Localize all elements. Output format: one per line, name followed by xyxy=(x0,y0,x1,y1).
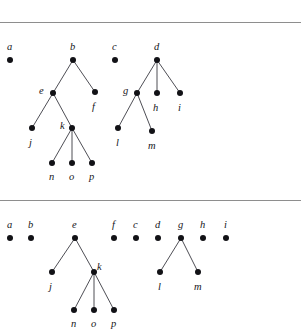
tree-node-label-h: h xyxy=(153,103,158,114)
tree-node-c xyxy=(133,235,139,241)
tree-node-d xyxy=(155,235,161,241)
tree-node-m xyxy=(195,269,201,275)
tree-node-label-l: l xyxy=(158,282,161,293)
tree-node-f xyxy=(111,235,117,241)
tree-node-g xyxy=(178,235,184,241)
tree-edge-g-l xyxy=(118,93,137,128)
tree-edge-b-e xyxy=(53,60,73,93)
tree-node-f xyxy=(92,89,98,95)
tree-node-label-l: l xyxy=(116,138,119,149)
middle-separator-rule xyxy=(0,200,301,201)
tree-node-l xyxy=(157,269,163,275)
tree-node-e xyxy=(72,235,78,241)
tree-node-label-c: c xyxy=(133,220,138,231)
tree-node-label-o: o xyxy=(69,172,74,183)
tree-node-c xyxy=(112,57,118,63)
tree-edge-d-i xyxy=(157,60,180,93)
tree-node-label-d: d xyxy=(154,42,159,53)
tree-node-label-n: n xyxy=(71,319,76,330)
tree-node-label-e: e xyxy=(72,220,77,231)
top-separator-rule xyxy=(0,22,301,23)
faint-header-artifact xyxy=(0,0,301,16)
tree-node-label-k: k xyxy=(97,262,102,273)
tree-node-label-e: e xyxy=(39,86,44,97)
tree-node-a xyxy=(7,57,13,63)
figure-canvas: abcdefghijklmnopabefcdghijklmnop xyxy=(0,0,301,331)
tree-node-a xyxy=(7,235,13,241)
tree-edge-d-g xyxy=(137,60,157,93)
tree-edge-k-p xyxy=(72,128,92,163)
tree-node-label-n: n xyxy=(49,172,54,183)
tree-node-l xyxy=(115,125,121,131)
tree-node-label-p: p xyxy=(89,172,94,183)
tree-node-i xyxy=(177,90,183,96)
tree-node-label-k: k xyxy=(60,121,65,132)
tree-node-e xyxy=(50,90,56,96)
tree-node-label-a: a xyxy=(7,42,12,53)
tree-node-label-a: a xyxy=(7,220,12,231)
tree-node-n xyxy=(49,160,55,166)
tree-edge-e-j xyxy=(52,238,75,272)
tree-edge-layer xyxy=(0,0,301,331)
tree-node-label-b: b xyxy=(28,220,33,231)
tree-node-label-i: i xyxy=(178,103,181,114)
tree-node-i xyxy=(223,235,229,241)
tree-node-b xyxy=(28,235,34,241)
tree-node-o xyxy=(91,307,97,313)
tree-node-p xyxy=(89,160,95,166)
tree-node-label-o: o xyxy=(91,319,96,330)
tree-node-j xyxy=(29,125,35,131)
tree-node-label-g: g xyxy=(178,220,183,231)
tree-node-d xyxy=(154,57,160,63)
tree-edge-g-m xyxy=(181,238,198,272)
tree-node-n xyxy=(71,307,77,313)
tree-node-label-j: j xyxy=(29,138,32,149)
tree-node-label-j: j xyxy=(49,282,52,293)
tree-edge-e-j xyxy=(32,93,53,128)
tree-node-label-d: d xyxy=(155,220,160,231)
tree-node-label-f: f xyxy=(112,220,115,231)
tree-node-label-c: c xyxy=(112,42,117,53)
tree-node-label-m: m xyxy=(148,141,156,152)
tree-edge-e-k xyxy=(75,238,94,272)
tree-edge-b-f xyxy=(73,60,95,92)
tree-node-label-g: g xyxy=(123,86,128,97)
tree-node-h xyxy=(154,90,160,96)
tree-node-p xyxy=(111,307,117,313)
tree-edge-k-n xyxy=(52,128,72,163)
tree-edge-g-l xyxy=(160,238,181,272)
tree-node-label-h: h xyxy=(200,220,205,231)
tree-node-h xyxy=(200,235,206,241)
tree-node-label-m: m xyxy=(194,282,202,293)
tree-node-m xyxy=(149,128,155,134)
tree-edge-g-m xyxy=(137,93,152,131)
tree-node-j xyxy=(49,269,55,275)
tree-edge-k-n xyxy=(74,272,94,310)
tree-node-label-f: f xyxy=(92,102,95,113)
tree-node-label-i: i xyxy=(224,220,227,231)
tree-node-b xyxy=(70,57,76,63)
tree-node-label-b: b xyxy=(70,42,75,53)
tree-edge-k-p xyxy=(94,272,114,310)
tree-node-k xyxy=(69,125,75,131)
tree-node-g xyxy=(134,90,140,96)
tree-node-o xyxy=(69,160,75,166)
tree-node-label-p: p xyxy=(111,319,116,330)
